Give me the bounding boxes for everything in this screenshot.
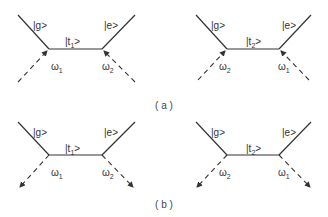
photon-frequency-label-left: ω1 (51, 167, 63, 180)
ground-state-label: |g> (211, 20, 225, 31)
panel-a-left: |g> |e> |t1> ω1 ω2 (18, 15, 135, 82)
photon-line-left (18, 51, 47, 82)
excited-state-label: |e> (282, 20, 296, 31)
two-photon-diagram: |g> |e> |t1> ω1 ω2 |g> |e> |t2> ω2 ω1 ( … (0, 0, 328, 217)
excited-state-label: |e> (282, 127, 296, 138)
panel-b-left: |g> |e> |t1> ω1 ω2 (18, 122, 135, 187)
intermediate-state-label: |t1> (65, 36, 80, 49)
photon-frequency-label-right: ω2 (102, 167, 114, 180)
ground-state-label: |g> (211, 127, 225, 138)
panel-b-right: |g> |e> |t2> ω2 ω1 (196, 122, 311, 187)
ground-state-label: |g> (33, 127, 47, 138)
panel-a-right: |g> |e> |t2> ω2 ω1 (196, 15, 311, 80)
caption-b: ( b ) (155, 199, 173, 210)
photon-frequency-label-right: ω1 (278, 61, 290, 74)
photon-frequency-label-right: ω1 (278, 167, 290, 180)
excited-state-label: |e> (104, 127, 118, 138)
ground-state-label: |g> (33, 20, 47, 31)
caption-a: ( a ) (155, 100, 173, 111)
intermediate-state-label: |t1> (65, 143, 80, 156)
photon-frequency-label-left: ω2 (219, 61, 231, 74)
excited-state-label: |e> (104, 20, 118, 31)
intermediate-state-label: |t2> (246, 143, 261, 156)
photon-line-left (20, 155, 49, 187)
intermediate-state-label: |t2> (246, 36, 261, 49)
photon-frequency-label-right: ω2 (102, 61, 114, 74)
photon-frequency-label-left: ω1 (51, 61, 63, 74)
photon-frequency-label-left: ω2 (219, 167, 231, 180)
